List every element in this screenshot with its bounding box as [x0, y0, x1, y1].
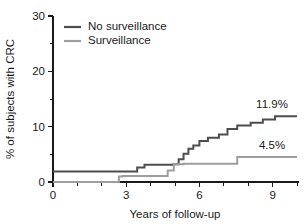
x-tick-label: 0 [50, 189, 56, 201]
x-tick-label: 9 [269, 189, 275, 201]
legend-label-no-surveillance: No surveillance [88, 20, 167, 32]
legend-label-surveillance: Surveillance [88, 34, 151, 46]
chart-legend: No surveillanceSurveillance [64, 20, 167, 46]
y-tick-label: 0 [39, 176, 45, 188]
y-tick-label: 30 [32, 10, 45, 22]
x-axis-title: Years of follow-up [130, 208, 221, 220]
endpoint-label-no-surveillance: 11.9% [256, 98, 288, 110]
y-tick-label: 10 [32, 121, 45, 133]
chart-endpoint-labels: 11.9%4.5% [256, 98, 288, 151]
y-tick-label: 20 [32, 65, 45, 77]
x-tick-label: 3 [123, 189, 129, 201]
y-axis-title: % of subjects with CRC [4, 39, 16, 159]
series-line-surveillance [53, 157, 297, 182]
chart-figure: 01020300369 No surveillanceSurveillance … [0, 0, 307, 224]
x-tick-label: 6 [196, 189, 202, 201]
chart-canvas: 01020300369 No surveillanceSurveillance … [0, 0, 307, 224]
endpoint-label-surveillance: 4.5% [259, 139, 285, 151]
